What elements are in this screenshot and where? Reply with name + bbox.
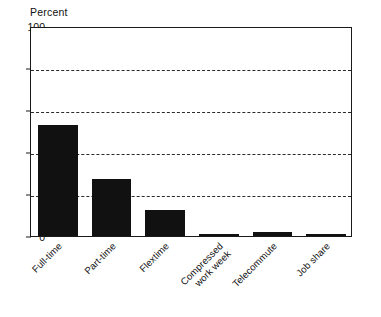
bar bbox=[38, 125, 78, 236]
x-axis-label: Telecommute bbox=[230, 241, 279, 290]
bar-chart: Percent 100806040200 Full-timePart-timeF… bbox=[0, 0, 381, 317]
x-axis-label: Flextime bbox=[138, 241, 172, 275]
bar bbox=[199, 234, 239, 236]
bar bbox=[306, 234, 346, 236]
bar bbox=[92, 179, 132, 236]
gridline-20 bbox=[31, 196, 351, 197]
x-axis-label: Job share bbox=[295, 241, 333, 279]
gridline-40 bbox=[31, 154, 351, 155]
bar bbox=[145, 210, 185, 236]
x-axis-label: Compressedwork week bbox=[173, 241, 233, 301]
x-axis-label: Full-time bbox=[30, 241, 64, 275]
x-axis-label: Part-time bbox=[82, 241, 118, 277]
gridline-60 bbox=[31, 112, 351, 113]
plot-area bbox=[30, 27, 352, 237]
y-axis-title: Percent bbox=[30, 6, 68, 18]
bar bbox=[253, 232, 293, 236]
gridline-80 bbox=[31, 70, 351, 71]
